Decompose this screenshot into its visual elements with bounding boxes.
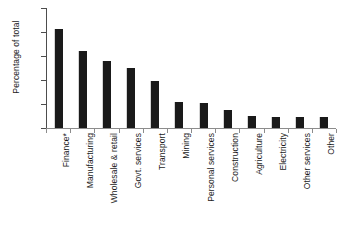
bar (295, 117, 304, 128)
x-axis-label: Mining (182, 133, 191, 159)
bar (247, 116, 256, 128)
x-axis-label: Personal services (207, 133, 216, 202)
bar (199, 103, 208, 128)
x-axis-label: Other services (303, 133, 312, 189)
plot-area (46, 8, 336, 128)
x-axis-label: Finance* (62, 133, 71, 167)
bar (223, 110, 232, 128)
y-axis-tick (41, 104, 46, 105)
y-axis-tick (41, 8, 46, 9)
x-axis-label: Electricity (279, 133, 288, 170)
bar (102, 61, 111, 128)
y-axis-tick (41, 56, 46, 57)
x-axis-label: Manufacturing (86, 133, 95, 188)
y-axis-title: Percentage of total (11, 2, 21, 112)
y-axis-tick (41, 80, 46, 81)
y-axis-tick (41, 32, 46, 33)
bar (319, 117, 328, 128)
bar (126, 68, 135, 128)
x-axis-label: Other (327, 133, 336, 155)
x-axis-tick (336, 129, 337, 133)
bar (78, 51, 87, 128)
x-axis-labels: Finance*ManufacturingWholesale & retailG… (46, 129, 336, 230)
bar (271, 117, 280, 128)
x-axis-label: Transport (158, 133, 167, 170)
x-axis-label: Agriculture (255, 133, 264, 175)
x-axis-label: Construction (231, 133, 240, 182)
bar (150, 81, 159, 128)
x-axis-label: Wholesale & retail (110, 133, 119, 203)
bar (54, 29, 63, 128)
y-axis-line (46, 8, 47, 129)
x-axis-label: Govt. services (134, 133, 143, 188)
bar (174, 102, 183, 128)
bar-chart: Percentage of total 25 20 15 10 5 0 Fina… (0, 0, 345, 230)
